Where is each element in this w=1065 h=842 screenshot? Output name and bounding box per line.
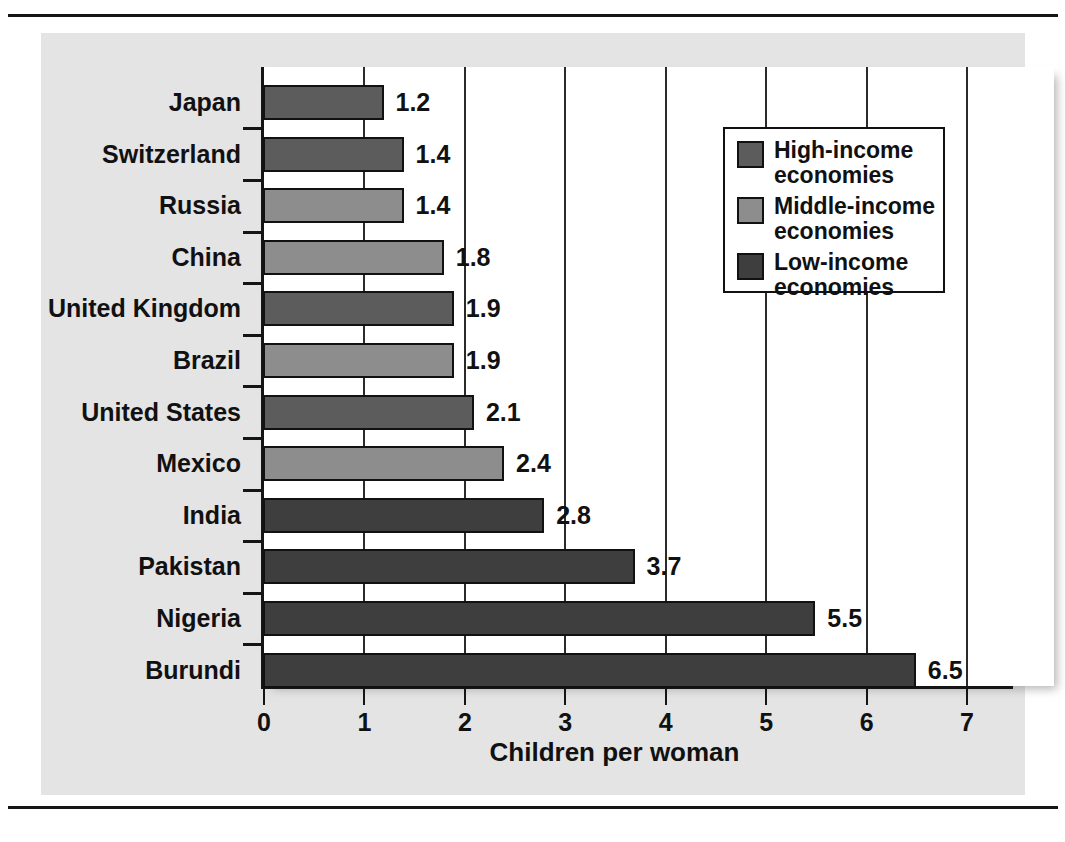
x-tick <box>564 689 566 705</box>
category-label: Japan <box>0 85 241 120</box>
x-tick <box>263 689 265 705</box>
y-tick <box>243 282 261 285</box>
gridline <box>564 67 566 686</box>
x-tick <box>665 689 667 705</box>
bar[interactable] <box>263 653 916 688</box>
x-tick <box>966 689 968 705</box>
bar-value-label: 1.2 <box>396 85 431 120</box>
legend-swatch-middle <box>737 197 764 224</box>
chart-legend: High-incomeeconomiesMiddle-incomeeconomi… <box>723 127 945 293</box>
legend-item[interactable]: Low-incomeeconomies <box>737 250 943 300</box>
y-tick <box>243 127 261 130</box>
category-label: Switzerland <box>0 137 241 172</box>
legend-label-line1: High-income <box>774 138 913 163</box>
figure-root: 01234567 1.21.41.41.81.91.92.12.42.83.75… <box>0 0 1065 842</box>
legend-label: High-incomeeconomies <box>774 138 913 188</box>
y-tick <box>243 334 261 337</box>
legend-label: Low-incomeeconomies <box>774 250 908 300</box>
bar[interactable] <box>263 188 404 223</box>
y-tick <box>243 592 261 595</box>
bar[interactable] <box>263 601 815 636</box>
x-tick-label: 6 <box>847 707 887 737</box>
y-tick <box>243 437 261 440</box>
category-label: Russia <box>0 188 241 223</box>
legend-label-line1: Low-income <box>774 250 908 275</box>
bar[interactable] <box>263 85 384 120</box>
bar-value-label: 2.4 <box>516 446 551 481</box>
x-tick <box>765 689 767 705</box>
bar-value-label: 2.1 <box>486 395 521 430</box>
category-label: Brazil <box>0 343 241 378</box>
category-label: China <box>0 240 241 275</box>
x-tick <box>464 689 466 705</box>
bar[interactable] <box>263 446 504 481</box>
bottom-rule <box>8 806 1058 809</box>
y-tick <box>243 540 261 543</box>
y-tick <box>243 231 261 234</box>
bar[interactable] <box>263 395 474 430</box>
bar-value-label: 1.4 <box>416 137 451 172</box>
bar-value-label: 1.4 <box>416 188 451 223</box>
gridline <box>966 67 968 686</box>
top-rule <box>8 14 1058 17</box>
gridline <box>665 67 667 686</box>
bar-value-label: 1.8 <box>456 240 491 275</box>
bar-value-label: 3.7 <box>647 549 682 584</box>
bar[interactable] <box>263 291 454 326</box>
bar[interactable] <box>263 137 404 172</box>
y-tick <box>243 489 261 492</box>
bar-value-label: 1.9 <box>466 343 501 378</box>
category-label: United States <box>0 395 241 430</box>
x-tick <box>866 689 868 705</box>
y-tick <box>243 385 261 388</box>
category-label: United Kingdom <box>0 291 241 326</box>
legend-label-line1: Middle-income <box>774 194 935 219</box>
legend-label-line2: economies <box>774 163 913 188</box>
bar-value-label: 1.9 <box>466 291 501 326</box>
category-label: Nigeria <box>0 601 241 636</box>
x-tick-label: 4 <box>646 707 686 737</box>
bar-value-label: 2.8 <box>556 498 591 533</box>
bar-value-label: 6.5 <box>928 653 963 688</box>
x-tick-label: 2 <box>445 707 485 737</box>
category-label: India <box>0 498 241 533</box>
x-tick-label: 1 <box>344 707 384 737</box>
x-tick-label: 5 <box>746 707 786 737</box>
legend-label-line2: economies <box>774 219 935 244</box>
x-axis-title: Children per woman <box>263 737 966 768</box>
legend-swatch-low <box>737 253 764 280</box>
category-label: Mexico <box>0 446 241 481</box>
category-label: Burundi <box>0 653 241 688</box>
y-tick <box>243 179 261 182</box>
legend-swatch-high <box>737 141 764 168</box>
bar[interactable] <box>263 343 454 378</box>
x-tick-label: 3 <box>545 707 585 737</box>
legend-item[interactable]: High-incomeeconomies <box>737 138 943 188</box>
category-label: Pakistan <box>0 549 241 584</box>
y-tick <box>243 643 261 646</box>
bar[interactable] <box>263 498 544 533</box>
bar-value-label: 5.5 <box>827 601 862 636</box>
bar[interactable] <box>263 549 635 584</box>
legend-item[interactable]: Middle-incomeeconomies <box>737 194 943 244</box>
x-tick-label: 0 <box>244 707 284 737</box>
legend-label-line2: economies <box>774 275 908 300</box>
x-tick-label: 7 <box>947 707 987 737</box>
legend-label: Middle-incomeeconomies <box>774 194 935 244</box>
bar[interactable] <box>263 240 444 275</box>
x-tick <box>363 689 365 705</box>
